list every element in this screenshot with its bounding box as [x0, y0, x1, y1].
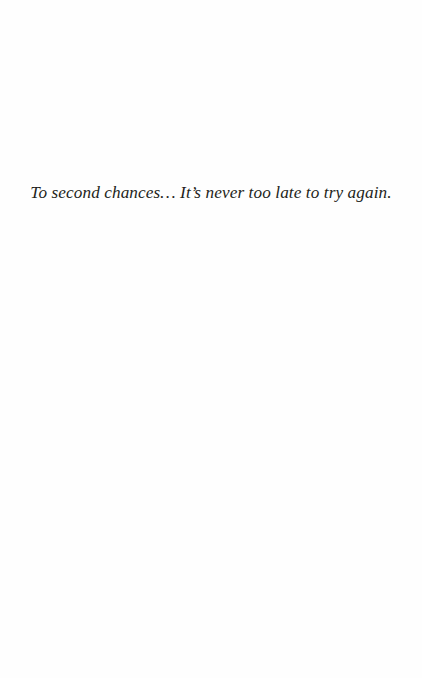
book-page: To second chances… It’s never too late t…	[0, 0, 422, 678]
dedication-text: To second chances… It’s never too late t…	[0, 183, 422, 203]
